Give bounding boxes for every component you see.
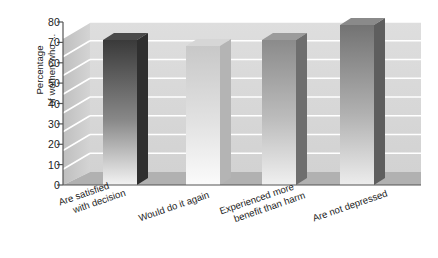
y-tick-0: 0 (38, 180, 60, 191)
bar-are-not-depressed (340, 18, 385, 185)
bar-are-satisfied-with-decision (103, 33, 148, 185)
bar-chart: 80 70 60 50 40 30 20 10 0 Percentage of … (0, 0, 438, 258)
y-tick-10: 10 (38, 160, 60, 171)
y-axis-title-line-2: of women who ... (46, 10, 58, 130)
bar-experienced-more-benefit-than-harm (262, 33, 307, 185)
chart-plot-area (0, 0, 438, 258)
y-axis-title-line-1: Percentage (34, 10, 46, 130)
y-axis-title: Percentage of women who ... (34, 10, 58, 130)
y-tick-20: 20 (38, 139, 60, 150)
bar-would-do-it-again (186, 39, 231, 185)
